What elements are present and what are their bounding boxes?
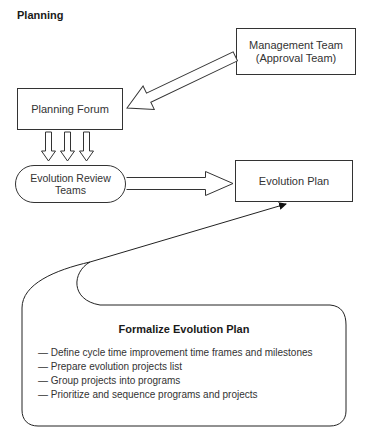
bullet-dash: —	[38, 361, 48, 372]
bullet-dash: —	[38, 389, 48, 400]
arrow-management-to-forum	[121, 45, 241, 120]
list-item-text: Prioritize and sequence programs and pro…	[51, 389, 258, 400]
evolution-plan-label: Evolution Plan	[235, 160, 353, 202]
bullet-dash: —	[38, 347, 48, 358]
review-teams-line2: Teams	[55, 184, 86, 196]
list-item: — Prepare evolution projects list	[38, 360, 313, 374]
management-team-line1: Management Team	[249, 39, 343, 52]
management-team-label: Management Team (Approval Team)	[236, 28, 356, 75]
management-team-line2: (Approval Team)	[256, 52, 337, 65]
evolution-review-teams-label: Evolution Review Teams	[15, 165, 126, 203]
planning-forum-label: Planning Forum	[17, 88, 123, 130]
arrows-forum-to-review-teams	[42, 132, 94, 161]
list-item-text: Prepare evolution projects list	[51, 361, 182, 372]
bullet-dash: —	[38, 375, 48, 386]
list-item-text: Define cycle time improvement time frame…	[51, 347, 313, 358]
list-item: — Group projects into programs	[38, 374, 313, 388]
arrow-review-teams-to-plan	[127, 172, 234, 196]
callout-title: Formalize Evolution Plan	[22, 323, 346, 335]
list-item: — Prioritize and sequence programs and p…	[38, 388, 313, 402]
review-teams-line1: Evolution Review	[30, 172, 111, 184]
arrow-callout-to-plan	[90, 204, 286, 262]
callout-list: — Define cycle time improvement time fra…	[38, 346, 313, 402]
list-item: — Define cycle time improvement time fra…	[38, 346, 313, 360]
list-item-text: Group projects into programs	[51, 375, 181, 386]
